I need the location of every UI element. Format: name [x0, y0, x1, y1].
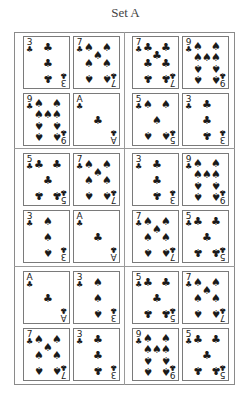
playing-card: 7♣7♣♠♠♠♠♠♠♠ [73, 36, 120, 89]
group-1-right: 7♣7♣♣♣♣♣♣♣♣9♣9♣♠♠♠♠♠♠♠♠♠5♣5♣♠♠♠♠♠3♣3♣♣♣♣ [132, 36, 229, 146]
spade-icon: ♠ [93, 276, 103, 287]
club-icon: ♣ [193, 333, 203, 344]
playing-card: 5♣5♣♣♣♣♣♣ [23, 153, 70, 206]
spade-icon: ♠ [143, 98, 153, 109]
spade-icon: ♠ [161, 365, 171, 376]
club-icon: ♣ [43, 292, 53, 303]
club-icon: ♣ [93, 114, 103, 125]
row-divider-1 [14, 148, 235, 149]
spade-icon: ♠ [43, 231, 53, 242]
spade-icon: ♠ [93, 308, 103, 319]
playing-card: A♣A♣♣ [73, 93, 120, 146]
spade-icon: ♠ [102, 158, 112, 169]
club-icon: ♣ [43, 174, 53, 185]
card-pips: ♣ [33, 277, 63, 318]
spade-icon: ♠ [143, 130, 153, 141]
spade-icon: ♠ [34, 130, 44, 141]
card-pips: ♣♣♣♣♣ [192, 216, 222, 257]
card-pips: ♠♠♠♠♠♠♠♠♠ [192, 42, 222, 83]
spade-icon: ♠ [193, 292, 203, 303]
set-title: Set A [0, 5, 251, 21]
playing-card: 5♣5♣♣♣♣♣♣ [182, 328, 229, 381]
spade-icon: ♠ [161, 231, 171, 242]
spade-icon: ♠ [161, 247, 171, 258]
playing-card: 3♣3♣♣♣♣ [73, 328, 120, 381]
spade-icon: ♠ [84, 174, 94, 185]
club-icon: ♣ [143, 308, 153, 319]
spade-icon: ♠ [102, 41, 112, 52]
club-icon: ♣ [43, 41, 53, 52]
club-icon: ♣ [152, 190, 162, 201]
club-icon: ♣ [202, 98, 212, 109]
playing-card: 9♣9♣♠♠♠♠♠♠♠♠♠ [132, 328, 179, 381]
card-pips: ♠♠♠♠♠♠♠ [192, 277, 222, 318]
card-pips: ♠♠♠♠♠♠♠ [83, 159, 113, 200]
card-pips: ♠♠♠♠♠♠♠♠♠ [142, 334, 172, 375]
spade-icon: ♠ [52, 365, 62, 376]
spade-icon: ♠ [84, 190, 94, 201]
club-icon: ♣ [161, 41, 171, 52]
card-pips: ♠♠♠♠♠♠♠ [142, 216, 172, 257]
column-divider [124, 32, 125, 385]
club-icon: ♣ [193, 247, 203, 258]
card-pips: ♠♠♠♠♠ [142, 99, 172, 140]
spade-icon: ♠ [102, 190, 112, 201]
club-icon: ♣ [161, 276, 171, 287]
spade-icon: ♠ [84, 57, 94, 68]
group-3-right: 5♣5♣♣♣♣♣♣7♣7♣♠♠♠♠♠♠♠9♣9♣♠♠♠♠♠♠♠♠♠5♣5♣♣♣♣… [132, 271, 229, 381]
playing-card: 7♣7♣♠♠♠♠♠♠♠ [132, 210, 179, 263]
playing-card: 7♣7♣♠♠♠♠♠♠♠ [182, 271, 229, 324]
card-pips: ♣♣♣ [33, 42, 63, 83]
spade-icon: ♠ [161, 130, 171, 141]
card-pips: ♣ [83, 216, 113, 257]
playing-card: 3♣3♣♣♣♣ [132, 153, 179, 206]
card-pips: ♠♠♠♠♠♠♠ [33, 334, 63, 375]
club-icon: ♣ [211, 333, 221, 344]
row-divider-2 [14, 266, 235, 267]
spade-icon: ♠ [161, 98, 171, 109]
playing-card: 9♣9♣♠♠♠♠♠♠♠♠♠ [182, 153, 229, 206]
spade-icon: ♠ [211, 276, 221, 287]
club-icon: ♣ [43, 57, 53, 68]
card-pips: ♣♣♣♣♣♣♣ [142, 42, 172, 83]
spade-icon: ♠ [143, 231, 153, 242]
card-pips: ♣♣♣ [192, 99, 222, 140]
spade-icon: ♠ [152, 114, 162, 125]
club-icon: ♣ [152, 158, 162, 169]
spade-icon: ♠ [34, 349, 44, 360]
card-pips: ♠♠♠♠♠♠♠ [83, 42, 113, 83]
club-icon: ♣ [202, 114, 212, 125]
club-icon: ♣ [143, 276, 153, 287]
playing-card: 9♣9♣♠♠♠♠♠♠♠♠♠ [23, 93, 70, 146]
spade-icon: ♠ [52, 333, 62, 344]
card-pips: ♣♣♣ [83, 334, 113, 375]
club-icon: ♣ [152, 174, 162, 185]
spade-icon: ♠ [102, 174, 112, 185]
spade-icon: ♠ [193, 308, 203, 319]
club-icon: ♣ [193, 215, 203, 226]
club-icon: ♣ [93, 365, 103, 376]
spade-icon: ♠ [211, 292, 221, 303]
playing-card: A♣A♣♣ [73, 210, 120, 263]
card-pips: ♠♠♠ [33, 216, 63, 257]
club-icon: ♣ [211, 365, 221, 376]
spade-icon: ♠ [43, 215, 53, 226]
playing-card: 3♣3♣♣♣♣ [23, 36, 70, 89]
spade-icon: ♠ [34, 365, 44, 376]
club-icon: ♣ [93, 231, 103, 242]
card-pips: ♣♣♣ [142, 159, 172, 200]
club-icon: ♣ [52, 158, 62, 169]
group-1-left: 3♣3♣♣♣♣7♣7♣♠♠♠♠♠♠♠9♣9♣♠♠♠♠♠♠♠♠♠A♣A♣♣ [23, 36, 120, 146]
playing-card: 9♣9♣♠♠♠♠♠♠♠♠♠ [182, 36, 229, 89]
card-pips: ♣ [83, 99, 113, 140]
club-icon: ♣ [202, 231, 212, 242]
club-icon: ♣ [152, 292, 162, 303]
card-pips: ♠♠♠ [83, 277, 113, 318]
playing-card: 3♣3♣♣♣♣ [182, 93, 229, 146]
card-pips: ♣♣♣♣♣ [192, 334, 222, 375]
spade-icon: ♠ [211, 190, 221, 201]
card-pips: ♣♣♣♣♣ [142, 277, 172, 318]
spade-icon: ♠ [102, 73, 112, 84]
club-icon: ♣ [93, 349, 103, 360]
spade-icon: ♠ [93, 292, 103, 303]
